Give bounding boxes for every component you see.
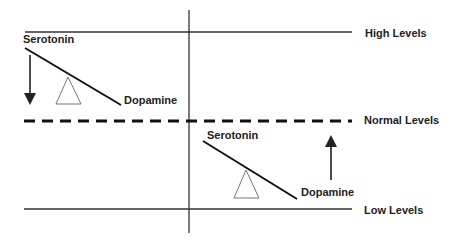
right-serotonin-label: Serotonin: [207, 129, 258, 141]
serotonin-dopamine-diagram: High Levels Normal Levels Low Levels Ser…: [0, 0, 462, 243]
right-seesaw-beam: [203, 141, 297, 199]
left-serotonin-label: Serotonin: [23, 33, 74, 45]
left-fulcrum-triangle-icon: [56, 77, 81, 104]
left-seesaw-beam: [25, 48, 121, 105]
right-dopamine-label: Dopamine: [301, 186, 354, 198]
normal-levels-label: Normal Levels: [364, 114, 439, 126]
left-seesaw: [25, 48, 121, 105]
left-dopamine-label: Dopamine: [124, 94, 177, 106]
high-levels-label: High Levels: [365, 27, 427, 39]
low-levels-label: Low Levels: [364, 204, 423, 216]
